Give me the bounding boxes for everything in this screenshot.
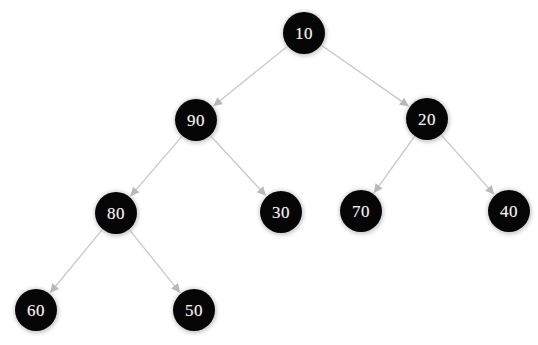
tree-node[interactable]: 50 [173,289,215,331]
tree-node-label: 50 [185,302,203,319]
tree-node-label: 30 [272,204,290,221]
tree-node-label: 70 [352,203,370,220]
tree-node[interactable]: 90 [175,99,217,141]
tree-node-label: 60 [27,302,45,319]
tree-node-label: 80 [107,205,125,222]
tree-node[interactable]: 70 [340,190,382,232]
tree-node-label: 10 [295,25,313,42]
tree-node[interactable]: 40 [488,190,530,232]
binary-tree-diagram: 109020803070406050 [0,0,538,345]
tree-node[interactable]: 30 [260,191,302,233]
tree-node[interactable]: 80 [95,192,137,234]
tree-node[interactable]: 10 [283,12,325,54]
tree-node[interactable]: 20 [406,98,448,140]
node-layer: 109020803070406050 [0,0,538,345]
tree-node-label: 90 [187,112,205,129]
tree-node-label: 20 [418,111,436,128]
tree-node-label: 40 [500,203,518,220]
tree-node[interactable]: 60 [15,289,57,331]
